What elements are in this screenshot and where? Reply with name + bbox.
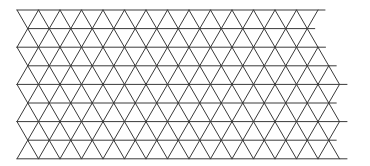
grid-diagonal-line xyxy=(254,140,265,159)
grid-diagonal-line xyxy=(286,84,297,103)
grid-diagonal-line xyxy=(189,29,200,48)
grid-diagonal-line xyxy=(125,66,136,85)
grid-diagonal-line xyxy=(254,103,265,122)
grid-diagonal-line xyxy=(189,122,200,141)
grid-diagonal-line xyxy=(221,122,232,141)
grid-diagonal-line xyxy=(189,84,200,103)
grid-diagonal-line xyxy=(254,122,265,141)
grid-diagonal-line xyxy=(221,66,232,85)
grid-diagonal-line xyxy=(28,29,39,48)
grid-diagonal-line xyxy=(82,103,93,122)
grid-diagonal-line xyxy=(60,122,71,141)
grid-diagonal-line xyxy=(221,10,232,29)
grid-diagonal-line xyxy=(92,140,103,159)
grid-diagonal-line xyxy=(297,29,308,48)
grid-diagonal-line xyxy=(243,10,254,29)
grid-diagonal-line xyxy=(135,122,146,141)
grid-diagonal-line xyxy=(318,66,329,85)
grid-diagonal-line xyxy=(232,122,243,141)
grid-diagonal-line xyxy=(243,122,254,141)
grid-diagonal-line xyxy=(307,47,318,66)
grid-diagonal-line xyxy=(71,122,82,141)
grid-diagonal-line xyxy=(200,122,211,141)
grid-diagonal-line xyxy=(39,122,50,141)
grid-diagonal-line xyxy=(168,10,179,29)
grid-diagonal-line xyxy=(60,84,71,103)
grid-diagonal-line xyxy=(243,84,254,103)
grid-diagonal-line xyxy=(103,84,114,103)
grid-diagonal-line xyxy=(264,84,275,103)
grid-diagonal-line xyxy=(157,66,168,85)
grid-diagonal-line xyxy=(92,103,103,122)
grid-diagonal-line xyxy=(307,29,318,48)
grid-diagonal-line xyxy=(307,10,318,29)
grid-diagonal-line xyxy=(211,10,222,29)
grid-diagonal-line xyxy=(275,66,286,85)
grid-diagonal-line xyxy=(92,84,103,103)
triangular-grid xyxy=(0,0,370,166)
grid-diagonal-line xyxy=(200,103,211,122)
grid-diagonal-line xyxy=(297,66,308,85)
grid-diagonal-line xyxy=(82,47,93,66)
grid-diagonal-line xyxy=(297,10,308,29)
grid-diagonal-line xyxy=(254,84,265,103)
grid-diagonal-line xyxy=(297,103,308,122)
grid-diagonal-line xyxy=(114,84,125,103)
grid-diagonal-line xyxy=(49,140,60,159)
grid-diagonal-line xyxy=(318,122,329,141)
grid-diagonal-line xyxy=(232,47,243,66)
grid-diagonal-line xyxy=(135,47,146,66)
grid-diagonal-line xyxy=(71,10,82,29)
grid-diagonal-line xyxy=(28,140,39,159)
grid-diagonal-line xyxy=(200,140,211,159)
grid-diagonal-line xyxy=(264,66,275,85)
grid-diagonal-line xyxy=(157,122,168,141)
grid-diagonal-line xyxy=(221,103,232,122)
grid-diagonal-line xyxy=(297,140,308,159)
grid-diagonal-line xyxy=(318,47,329,66)
grid-diagonal-line xyxy=(232,140,243,159)
grid-diagonal-line xyxy=(60,140,71,159)
grid-diagonal-line xyxy=(275,47,286,66)
grid-diagonal-line xyxy=(71,103,82,122)
grid-diagonal-line xyxy=(28,122,39,141)
grid-diagonal-line xyxy=(307,140,318,159)
grid-diagonal-line xyxy=(178,29,189,48)
grid-diagonal-line xyxy=(168,103,179,122)
grid-diagonal-line xyxy=(264,122,275,141)
grid-diagonal-line xyxy=(329,103,340,122)
grid-diagonal-line xyxy=(125,29,136,48)
grid-diagonal-line xyxy=(103,122,114,141)
grid-diagonal-line xyxy=(135,140,146,159)
grid-diagonal-line xyxy=(114,103,125,122)
grid-diagonal-line xyxy=(28,47,39,66)
grid-diagonal-line xyxy=(146,122,157,141)
grid-diagonal-line xyxy=(297,84,308,103)
grid-diagonal-line xyxy=(200,84,211,103)
grid-diagonal-line xyxy=(168,66,179,85)
grid-diagonal-line xyxy=(243,103,254,122)
grid-diagonal-line xyxy=(275,29,286,48)
grid-diagonal-line xyxy=(211,47,222,66)
grid-diagonal-line xyxy=(254,66,265,85)
grid-diagonal-line xyxy=(146,29,157,48)
grid-diagonal-line xyxy=(114,140,125,159)
grid-diagonal-line xyxy=(146,103,157,122)
grid-diagonal-line xyxy=(329,122,340,141)
grid-diagonal-line xyxy=(243,29,254,48)
grid-diagonal-line xyxy=(157,103,168,122)
grid-diagonal-line xyxy=(232,66,243,85)
grid-diagonal-line xyxy=(168,140,179,159)
grid-diagonal-line xyxy=(221,29,232,48)
grid-diagonal-line xyxy=(243,140,254,159)
grid-diagonal-line xyxy=(243,47,254,66)
grid-diagonal-line xyxy=(49,122,60,141)
grid-diagonal-line xyxy=(297,47,308,66)
grid-diagonal-line xyxy=(286,29,297,48)
grid-diagonal-line xyxy=(28,10,39,29)
grid-diagonal-line xyxy=(49,66,60,85)
grid-diagonal-line xyxy=(92,122,103,141)
grid-diagonal-line xyxy=(178,103,189,122)
grid-diagonal-line xyxy=(125,103,136,122)
grid-diagonal-line xyxy=(307,122,318,141)
